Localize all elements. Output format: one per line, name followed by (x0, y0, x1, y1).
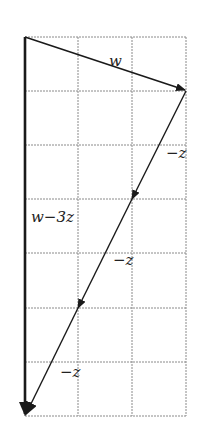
vector-w (25, 37, 185, 90)
vector-diagram: w −z w−3z −z −z (0, 0, 201, 437)
vector-minus-z-3 (26, 308, 78, 414)
label-w: w (109, 52, 122, 70)
label-minus-z-2: −z (113, 251, 134, 269)
grid (25, 37, 186, 416)
label-minus-z-3: −z (60, 363, 81, 381)
label-w-minus-3z: w−3z (31, 208, 74, 226)
label-minus-z-1: −z (166, 144, 187, 162)
